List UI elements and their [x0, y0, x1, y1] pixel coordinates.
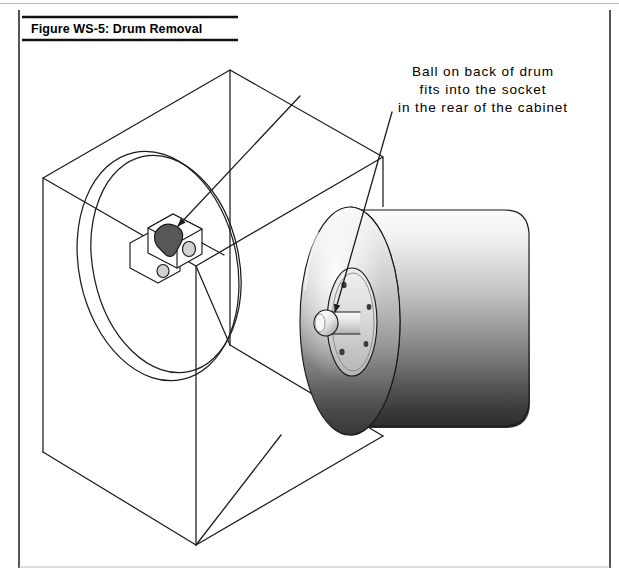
- leader-stub-lower-left: [196, 435, 281, 545]
- annotation-line-3: in the rear of the cabinet: [398, 100, 568, 115]
- hub-bolt-hole-bottom-right: [364, 341, 369, 347]
- figure-title-block: Figure WS-5: Drum Removal: [22, 17, 238, 40]
- figure-title: Figure WS-5: Drum Removal: [31, 22, 202, 36]
- socket-bolt-hole-right: [183, 242, 196, 257]
- hub-ball-end-face: [315, 314, 325, 332]
- annotation-line-1: Ball on back of drum: [412, 64, 554, 79]
- cabinet-floor-edges: [43, 436, 383, 545]
- figure-page: Figure WS-5: Drum Removal: [0, 0, 619, 577]
- hub-bolt-hole-bottom-left: [339, 349, 344, 355]
- cabinet-inner-seam: [196, 266, 230, 345]
- hub-bolt-hole-top-right: [367, 304, 372, 310]
- leader-to-socket: [178, 96, 300, 226]
- socket-bracket: [130, 214, 224, 283]
- annotation-block: Ball on back of drum fits into the socke…: [398, 64, 568, 115]
- socket-bolt-hole-lower: [157, 265, 169, 278]
- annotation-line-2: fits into the socket: [420, 82, 547, 97]
- drum-removal-figure: Figure WS-5: Drum Removal: [0, 0, 619, 577]
- socket-arm: [202, 243, 224, 255]
